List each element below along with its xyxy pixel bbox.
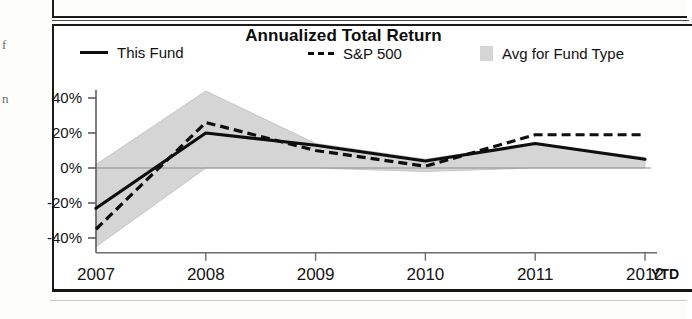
adjacent-panel-bottom-edge [52,0,687,18]
chart-legend: This Fund S&P 500 Avg for Fund Type [80,44,680,66]
solid-line-swatch-icon [80,51,108,54]
dashed-line-swatch-icon [308,52,334,55]
legend-label-avg-fund-type: Avg for Fund Type [502,45,624,62]
band-swatch-icon [480,46,493,61]
legend-label-this-fund: This Fund [117,44,184,61]
legend-item-sp500: S&P 500 [308,45,402,62]
margin-text-fragment-2: n [2,92,9,105]
legend-label-sp500: S&P 500 [343,45,402,62]
page-rule [50,300,687,301]
chart-title: Annualized Total Return [0,26,687,46]
legend-item-avg-fund-type: Avg for Fund Type [480,45,624,62]
legend-item-this-fund: This Fund [80,44,184,61]
